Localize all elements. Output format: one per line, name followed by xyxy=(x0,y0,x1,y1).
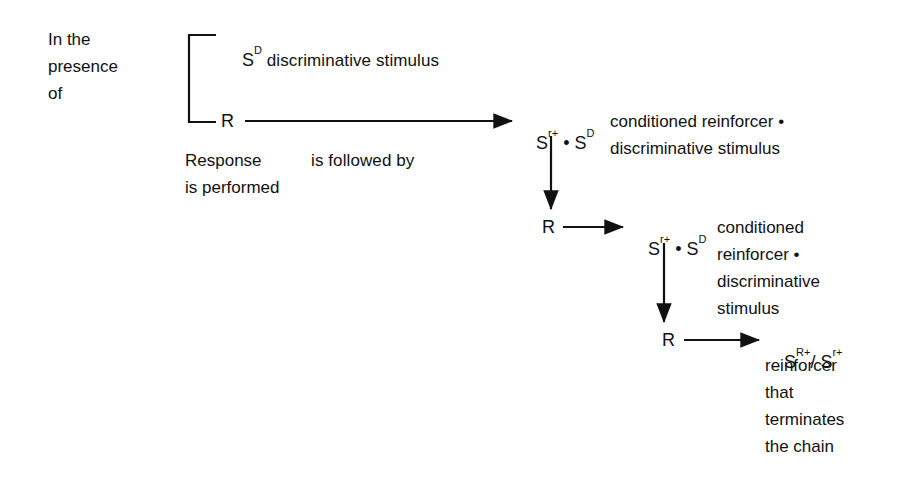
tier1-caption-mid: is followed by xyxy=(311,147,414,174)
diagram-canvas: In the presence of SD discriminative sti… xyxy=(0,0,914,481)
left-label-line-1: In the xyxy=(48,26,118,53)
left-label-line-2: presence xyxy=(48,53,118,80)
tier1-response-symbol: R xyxy=(221,110,234,132)
tier1-outcome-symbol: Sr+ • SD xyxy=(516,110,594,176)
tier3-outcome-text: reinforcer that terminates the chain xyxy=(765,352,844,460)
tier2-outcome-text-line-3: discriminative xyxy=(717,268,820,295)
tier2-outcome-sup-1: r+ xyxy=(660,233,670,245)
tier1-sd-base: S xyxy=(242,50,254,70)
bracket-sd-r xyxy=(189,35,216,122)
tier1-caption-left: Response is performed xyxy=(185,147,279,201)
tier1-outcome-text: conditioned reinforcer • discriminative … xyxy=(610,108,784,162)
tier1-sd-superscript: D xyxy=(254,44,262,56)
tier2-outcome-symbol: Sr+ • SD xyxy=(628,216,706,282)
tier2-response-symbol: R xyxy=(542,216,555,238)
tier1-outcome-text-line-1: conditioned reinforcer • xyxy=(610,108,784,135)
tier1-sd-symbol: SD discriminative stimulus xyxy=(222,25,439,96)
left-label: In the presence of xyxy=(48,26,118,107)
tier1-caption-left-line-1: Response xyxy=(185,147,279,174)
tier2-outcome-text-line-1: conditioned xyxy=(717,214,820,241)
tier3-outcome-text-line-1: reinforcer xyxy=(765,352,844,379)
tier1-outcome-base-2: S xyxy=(574,133,586,153)
tier2-outcome-text-line-2: reinforcer • xyxy=(717,241,820,268)
tier1-outcome-text-line-2: discriminative stimulus xyxy=(610,135,784,162)
tier3-outcome-text-line-4: the chain xyxy=(765,433,844,460)
tier3-response-symbol: R xyxy=(662,329,675,351)
tier2-outcome-sup-2: D xyxy=(698,233,706,245)
tier1-sd-text: discriminative stimulus xyxy=(262,51,439,70)
tier2-outcome-base-1: S xyxy=(648,239,660,259)
tier1-outcome-sup-1: r+ xyxy=(548,127,558,139)
tier1-caption-left-line-2: is performed xyxy=(185,174,279,201)
tier1-outcome-joiner: • xyxy=(558,133,574,153)
tier1-outcome-sup-2: D xyxy=(586,127,594,139)
tier3-outcome-text-line-2: that xyxy=(765,379,844,406)
tier2-outcome-text: conditioned reinforcer • discriminative … xyxy=(717,214,820,322)
tier2-outcome-base-2: S xyxy=(686,239,698,259)
tier3-outcome-text-line-3: terminates xyxy=(765,406,844,433)
tier2-outcome-text-line-4: stimulus xyxy=(717,295,820,322)
tier1-outcome-base-1: S xyxy=(536,133,548,153)
left-label-line-3: of xyxy=(48,80,118,107)
tier2-outcome-joiner: • xyxy=(670,239,686,259)
